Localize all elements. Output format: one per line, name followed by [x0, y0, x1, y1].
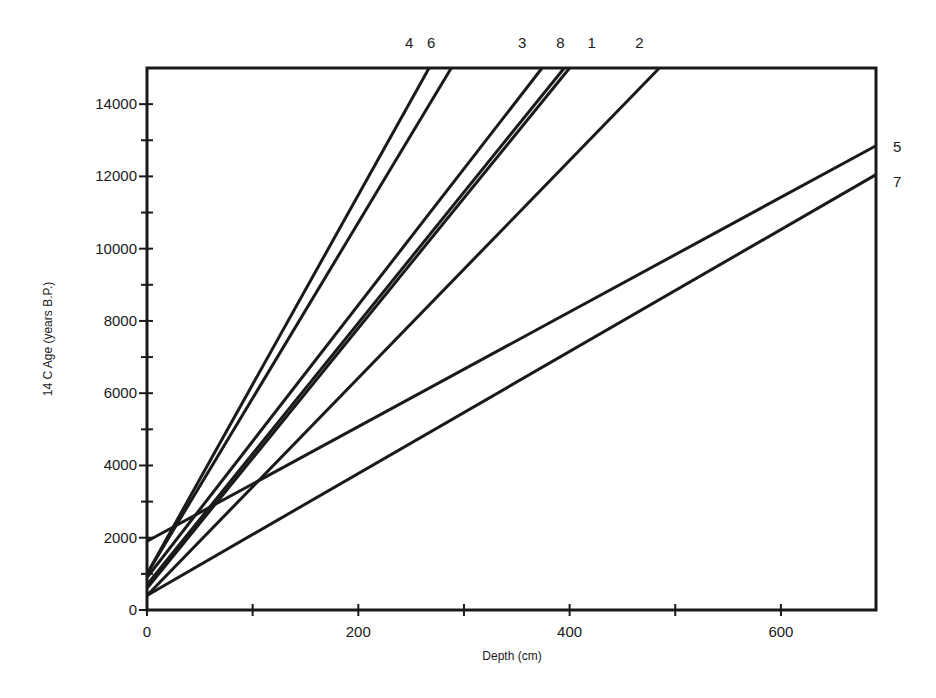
series-label-7: 7 [893, 173, 901, 190]
y-tick-label: 6000 [104, 384, 137, 401]
x-axis-title: Depth (cm) [482, 649, 541, 663]
y-tick-label: 12000 [95, 167, 137, 184]
series-labels: 12345678 [405, 34, 901, 190]
series-label-1: 1 [587, 34, 595, 51]
x-tick-label: 400 [557, 623, 582, 640]
age-depth-chart: 0200400600 02000400060008000100001200014… [0, 0, 936, 698]
series-line-1 [147, 68, 570, 588]
x-tick-label: 600 [768, 623, 793, 640]
y-axis: 02000400060008000100001200014000 [95, 95, 153, 618]
y-axis-title: 14 C Age (years B.P.) [41, 282, 55, 397]
y-tick-label: 14000 [95, 95, 137, 112]
series-line-3 [147, 68, 542, 578]
series-line-7 [147, 175, 876, 596]
series-line-8 [147, 68, 564, 585]
series-label-4: 4 [405, 34, 413, 51]
series-label-6: 6 [427, 34, 435, 51]
y-tick-label: 8000 [104, 312, 137, 329]
series-label-3: 3 [518, 34, 526, 51]
series-line-6 [147, 68, 451, 574]
series-label-5: 5 [893, 138, 901, 155]
series-line-5 [147, 146, 876, 542]
y-tick-label: 10000 [95, 240, 137, 257]
x-tick-label: 0 [143, 623, 151, 640]
series-lines [147, 68, 876, 596]
series-label-8: 8 [556, 34, 564, 51]
y-tick-label: 0 [129, 601, 137, 618]
y-tick-label: 4000 [104, 456, 137, 473]
series-label-2: 2 [635, 34, 643, 51]
plot-frame [147, 68, 876, 610]
series-line-4 [147, 68, 429, 574]
y-tick-label: 2000 [104, 529, 137, 546]
x-tick-label: 200 [346, 623, 371, 640]
